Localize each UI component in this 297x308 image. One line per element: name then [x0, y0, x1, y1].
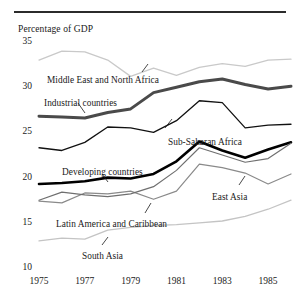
series-label-sub-saharan-africa: Sub-Saharan Africa: [168, 137, 242, 147]
series-line-sub-saharan-africa: [39, 101, 291, 151]
leader-line-east-asia: [239, 176, 245, 185]
plot-area: [0, 0, 297, 308]
leader-line-south-asia: [102, 237, 108, 245]
series-label-latin-america-and-caribbean: Latin America and Caribbean: [56, 219, 167, 229]
series-label-middle-east-and-north-africa: Middle East and North Africa: [47, 75, 159, 85]
series-label-south-asia: South Asia: [82, 251, 123, 261]
series-label-east-asia: East Asia: [212, 192, 247, 202]
series-label-developing-countries: Developing countries: [62, 167, 143, 177]
series-line-developing-countries: [39, 141, 291, 183]
leader-line-latin-america-and-caribbean: [145, 203, 151, 213]
chart-figure: Percentage of GDP 353025201510 197519771…: [0, 0, 297, 308]
series-label-industrial-countries: Industrial countries: [44, 98, 117, 108]
series-line-middle-east-and-north-africa: [39, 51, 291, 76]
